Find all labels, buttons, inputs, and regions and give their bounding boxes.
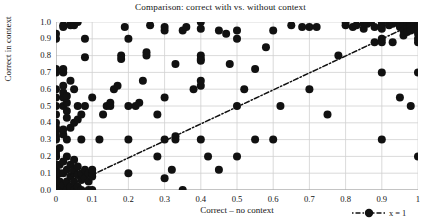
plot-area: 0.00.10.20.30.40.50.60.70.80.91.0 00.10.… [56, 22, 418, 190]
y-tick-label: 0.0 [25, 185, 51, 195]
y-tick-label: 0.3 [25, 134, 51, 144]
chart-figure: Comparison: correct with vs. without con… [0, 0, 441, 224]
y-tick-label: 0.7 [25, 67, 51, 77]
x-tick-label: 0.7 [296, 194, 322, 204]
x-tick-label: 0.4 [188, 194, 214, 204]
y-tick-label: 0.1 [25, 168, 51, 178]
x-tick-label: 0.1 [79, 194, 105, 204]
x-tick-label: 0.5 [224, 194, 250, 204]
x-tick-label: 0.9 [369, 194, 395, 204]
legend-label: x = 1 [389, 209, 406, 218]
y-tick-label: 0.8 [25, 50, 51, 60]
x-tick-label: 1 [405, 194, 431, 204]
y-tick-label: 0.6 [25, 84, 51, 94]
y-axis-label: Correct in context [3, 0, 13, 119]
legend-line-swatch [352, 208, 386, 218]
y-tick-label: 0.2 [25, 151, 51, 161]
y-tick-label: 0.9 [25, 33, 51, 43]
chart-legend: x = 1 [352, 208, 406, 218]
chart-title: Comparison: correct with vs. without con… [0, 2, 441, 12]
y-tick-label: 1.0 [25, 17, 51, 27]
y-tick-label: 0.4 [25, 117, 51, 127]
y-tick-label: 0.5 [25, 101, 51, 111]
x-tick-label: 0.2 [115, 194, 141, 204]
x-tick-label: 0.3 [152, 194, 178, 204]
x-tick-label: 0.6 [260, 194, 286, 204]
reference-line [85, 22, 418, 178]
x-tick-label: 0 [43, 194, 69, 204]
x-tick-label: 0.8 [333, 194, 359, 204]
scatter-plot-svg [56, 22, 418, 190]
